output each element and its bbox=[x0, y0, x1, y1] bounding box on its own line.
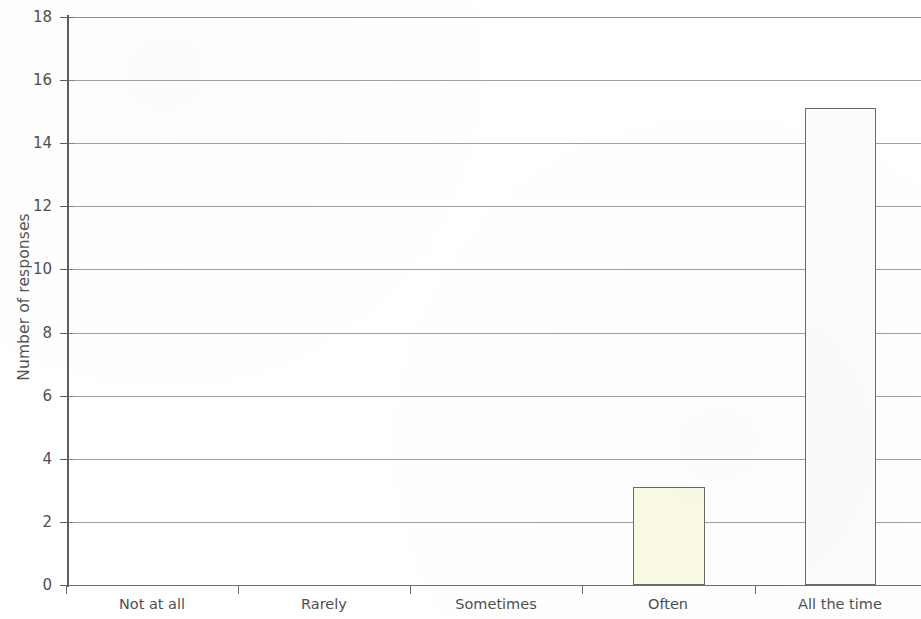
y-tick-label-16: 16 bbox=[14, 71, 52, 89]
gridline-6 bbox=[67, 396, 921, 397]
x-tick-label-all-the-time: All the time bbox=[798, 596, 882, 612]
bar-all-the-time[interactable] bbox=[805, 108, 876, 585]
y-tick-label-10: 10 bbox=[14, 260, 52, 278]
y-axis-line bbox=[67, 15, 69, 587]
y-tick-label-2: 2 bbox=[14, 513, 52, 531]
x-tick-mark-1 bbox=[238, 585, 239, 594]
gridline-14 bbox=[67, 143, 921, 144]
x-tick-label-not-at-all: Not at all bbox=[119, 596, 185, 612]
gridline-18 bbox=[67, 17, 921, 18]
y-tick-label-4: 4 bbox=[14, 450, 52, 468]
y-axis-tick-labels: 18 16 14 12 10 8 6 4 2 0 bbox=[0, 0, 52, 619]
x-axis-line bbox=[66, 585, 921, 586]
gridline-8 bbox=[67, 333, 921, 334]
gridline-16 bbox=[67, 80, 921, 81]
y-tick-label-8: 8 bbox=[14, 324, 52, 342]
y-tick-label-14: 14 bbox=[14, 134, 52, 152]
gridline-4 bbox=[67, 459, 921, 460]
gridline-12 bbox=[67, 206, 921, 207]
x-tick-label-sometimes: Sometimes bbox=[455, 596, 536, 612]
plot-area bbox=[67, 17, 921, 585]
x-tick-label-rarely: Rarely bbox=[301, 596, 347, 612]
y-tick-label-18: 18 bbox=[14, 8, 52, 26]
y-tick-label-12: 12 bbox=[14, 197, 52, 215]
bar-chart: Number of responses 18 16 14 12 10 8 6 4… bbox=[0, 0, 921, 619]
x-tick-mark-3 bbox=[582, 585, 583, 594]
x-tick-label-often: Often bbox=[648, 596, 688, 612]
y-tick-label-6: 6 bbox=[14, 387, 52, 405]
x-tick-mark-2 bbox=[410, 585, 411, 594]
bar-often[interactable] bbox=[633, 487, 705, 585]
gridline-2 bbox=[67, 522, 921, 523]
gridline-10 bbox=[67, 269, 921, 270]
x-tick-mark-4 bbox=[755, 585, 756, 594]
x-tick-mark-0 bbox=[66, 585, 67, 594]
y-tick-label-0: 0 bbox=[14, 576, 52, 594]
